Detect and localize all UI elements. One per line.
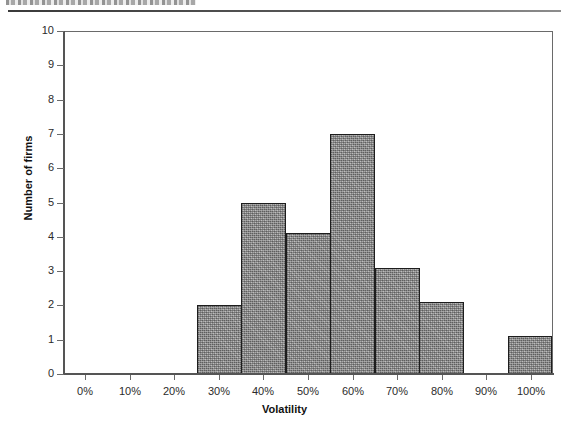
y-axis-tick	[57, 237, 64, 238]
x-axis-tick	[130, 375, 131, 380]
y-axis-tick-label: 10	[10, 25, 54, 36]
x-axis-title: Volatility	[0, 403, 569, 415]
y-axis-tick	[57, 134, 64, 135]
x-axis-tick	[397, 375, 398, 380]
x-axis-tick	[353, 375, 354, 380]
y-axis-tick	[57, 100, 64, 101]
y-axis-tick-label: 3	[10, 265, 54, 276]
histogram-bar	[419, 302, 464, 374]
histogram-bar	[508, 336, 552, 374]
scanned-page: 012345678910 0%10%20%30%40%50%60%70%80%9…	[0, 0, 569, 427]
y-axis-tick-label: 2	[10, 299, 54, 310]
histogram-bar	[286, 233, 331, 374]
y-axis-tick	[57, 374, 64, 375]
y-axis-tick	[57, 65, 64, 66]
x-axis-tick	[85, 375, 86, 380]
y-axis-tick	[57, 168, 64, 169]
x-axis-tick-label: 100%	[501, 385, 561, 397]
y-axis-tick	[57, 203, 64, 204]
y-axis-title: Number of firms	[22, 98, 34, 258]
y-axis-tick	[57, 305, 64, 306]
y-axis-tick	[57, 340, 64, 341]
histogram-bar	[241, 203, 286, 375]
histogram-bar	[330, 134, 375, 374]
x-axis-tick	[308, 375, 309, 380]
y-axis-tick	[57, 31, 64, 32]
histogram-bar	[197, 305, 242, 374]
y-axis-tick-label: 9	[10, 59, 54, 70]
y-axis-tick	[57, 271, 64, 272]
x-axis-tick	[219, 375, 220, 380]
x-axis-tick	[486, 375, 487, 380]
x-axis-tick	[174, 375, 175, 380]
y-axis-tick-label: 0	[10, 368, 54, 379]
x-axis-tick	[263, 375, 264, 380]
x-axis-tick	[531, 375, 532, 380]
volatility-histogram-chart: 012345678910 0%10%20%30%40%50%60%70%80%9…	[0, 0, 569, 427]
x-axis-tick	[442, 375, 443, 380]
y-axis-tick-label: 1	[10, 334, 54, 345]
histogram-bar	[375, 268, 420, 374]
